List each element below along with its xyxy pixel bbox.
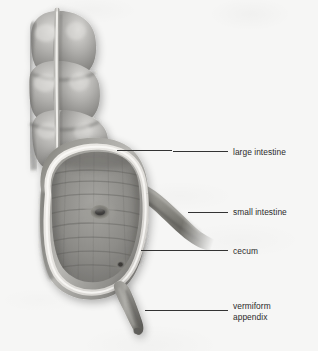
vermiform-appendix xyxy=(114,281,144,335)
label-small-intestine: small intestine xyxy=(233,207,287,218)
appendiceal-orifice xyxy=(114,259,128,271)
anatomy-figure: large intestine small intestine cecum ve… xyxy=(0,0,318,351)
label-cecum: cecum xyxy=(233,246,258,257)
cecum-illustration xyxy=(0,0,318,351)
appendix-tip xyxy=(134,328,142,334)
cecum-body xyxy=(40,138,149,300)
label-large-intestine: large intestine xyxy=(233,147,286,158)
leader-cecum xyxy=(140,250,228,251)
ileocecal-orifice xyxy=(85,201,115,224)
label-vermiform-appendix: vermiform appendix xyxy=(233,301,271,322)
